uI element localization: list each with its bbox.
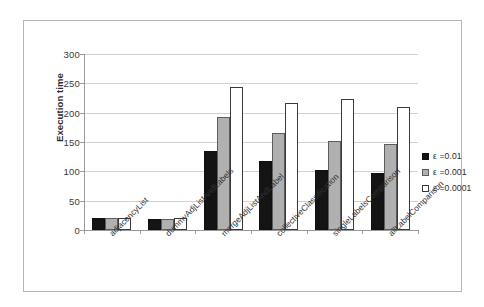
legend-swatch xyxy=(422,153,429,160)
legend-label: ε =0.0001 xyxy=(433,183,471,193)
y-axis-title: Execution time xyxy=(54,73,65,142)
chart-frame: 300 250 200 150 100 50 0 Execution time … xyxy=(23,20,462,292)
figure-page: 300 250 200 150 100 50 0 Execution time … xyxy=(0,0,484,307)
category-axis-labels: adjacencyListdummyAdjListAndLabelsmergeA… xyxy=(84,231,418,307)
y-tick-label-50: 50 xyxy=(69,195,80,206)
legend: ε =0.01ε =0.001ε =0.0001 xyxy=(422,148,484,196)
bar xyxy=(148,219,161,230)
y-tick-label-150: 150 xyxy=(64,137,80,148)
legend-swatch xyxy=(422,169,429,176)
y-tick-label-100: 100 xyxy=(64,166,80,177)
bar-group xyxy=(84,54,140,230)
legend-label: ε =0.01 xyxy=(433,151,462,161)
legend-entry: ε =0.0001 xyxy=(422,180,484,196)
y-tick-label-200: 200 xyxy=(64,107,80,118)
legend-swatch xyxy=(422,185,429,192)
legend-label: ε =0.001 xyxy=(433,167,467,177)
legend-entry: ε =0.01 xyxy=(422,148,484,164)
y-tick-label-250: 250 xyxy=(64,78,80,89)
category-tick xyxy=(418,230,419,234)
legend-entry: ε =0.001 xyxy=(422,164,484,180)
bar xyxy=(92,218,105,230)
y-tick-label-300: 300 xyxy=(64,49,80,60)
